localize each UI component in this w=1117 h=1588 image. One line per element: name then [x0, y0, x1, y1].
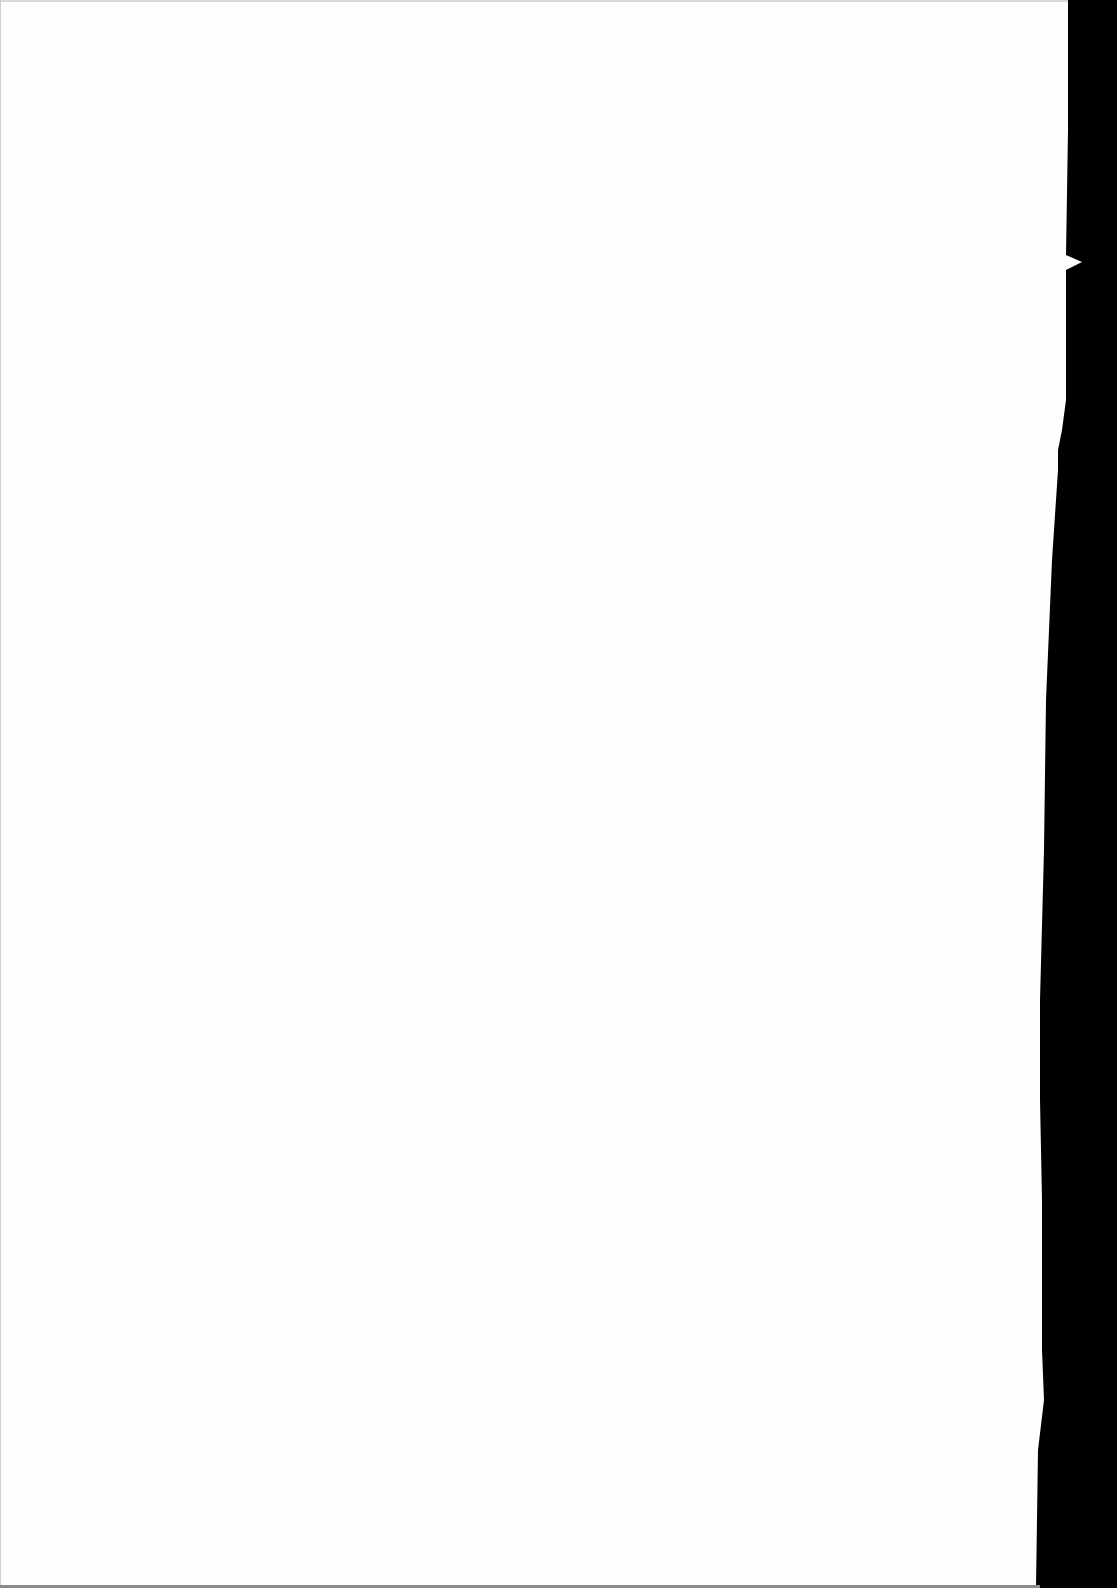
paper-area: [0, 0, 1082, 1588]
scanned-document: [0, 0, 1117, 1588]
top-scan-edge: [0, 0, 1068, 2]
left-scan-edge: [0, 0, 1, 1588]
paper-sheet: [0, 0, 1117, 1588]
